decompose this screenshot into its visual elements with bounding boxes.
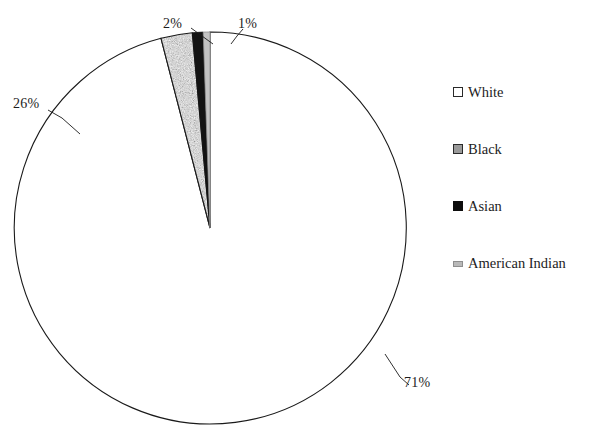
legend-item-american-indian[interactable]: American Indian <box>453 253 589 273</box>
hollow-square-swatch-icon <box>453 87 463 97</box>
speckled-square-swatch-icon <box>453 144 463 154</box>
data-label-black-percent: 26% <box>13 96 39 112</box>
legend-item-black[interactable]: Black <box>453 139 589 159</box>
data-label-white-percent: 71% <box>404 375 430 391</box>
legend-label-black: Black <box>468 142 502 157</box>
data-label-asian-percent: 2% <box>163 16 182 32</box>
chart-legend: White Black Asian American Indian <box>453 82 589 273</box>
solid-black-square-swatch-icon <box>453 201 463 211</box>
legend-item-asian[interactable]: Asian <box>453 196 589 216</box>
legend-label-white: White <box>468 85 503 100</box>
light-gray-sliver-swatch-icon <box>453 258 463 268</box>
data-label-american-indian-percent: 1% <box>238 16 257 32</box>
legend-item-white[interactable]: White <box>453 82 589 102</box>
pie-chart-figure: 26% 2% 1% 71% White Black Asian American… <box>0 0 589 442</box>
legend-label-american-indian: American Indian <box>468 256 566 271</box>
legend-label-asian: Asian <box>468 199 502 214</box>
